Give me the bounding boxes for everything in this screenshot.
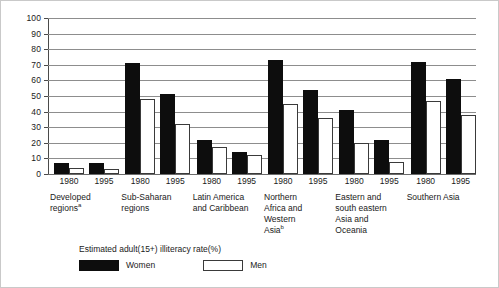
legend-label-men: Men (250, 260, 267, 271)
gridline-0 (48, 174, 476, 175)
x-axis-year-4-1995: 1995 (369, 176, 409, 186)
bar-women-1-1980 (125, 63, 140, 174)
bar-women-3-1995 (303, 90, 318, 174)
x-axis-group-label-2: Latin Americaand Caribbean (193, 192, 268, 214)
x-axis-year-0-1980: 1980 (49, 176, 89, 186)
y-axis-label-0: 0 (1, 170, 41, 179)
bars-layer (48, 18, 476, 174)
y-axis-label-50: 50 (1, 92, 41, 101)
x-axis-year-4-1980: 1980 (334, 176, 374, 186)
x-axis-group-label-4: Eastern andsouth easternAsia andOceania (335, 192, 410, 236)
y-axis-label-40: 40 (1, 108, 41, 117)
y-axis-label-70: 70 (1, 61, 41, 70)
x-axis: 19801995Developedregionsa19801995Sub-Sah… (48, 176, 476, 246)
bar-men-0-1980 (69, 168, 84, 174)
y-tick-mark-0 (44, 174, 48, 175)
y-axis-label-30: 30 (1, 123, 41, 132)
bar-women-5-1980 (411, 62, 426, 174)
legend-entry-women: Women (79, 260, 155, 271)
bar-men-0-1995 (104, 169, 119, 174)
bar-men-1-1980 (140, 99, 155, 174)
bar-women-4-1980 (339, 110, 354, 174)
bar-women-2-1980 (197, 140, 212, 174)
x-axis-year-1-1980: 1980 (120, 176, 160, 186)
y-axis-label-10: 10 (1, 154, 41, 163)
y-axis-label-90: 90 (1, 30, 41, 39)
bar-women-3-1980 (268, 60, 283, 174)
bar-women-1-1995 (160, 94, 175, 174)
legend-entries: Women Men (79, 260, 419, 271)
legend-entry-men: Men (203, 260, 267, 271)
bar-men-2-1980 (212, 147, 227, 174)
x-axis-group-label-5: Southern Asia (407, 192, 482, 203)
legend-label-women: Women (126, 260, 155, 271)
bar-men-3-1980 (283, 104, 298, 174)
x-axis-group-label-0: Developedregionsa (50, 192, 125, 214)
x-axis-year-3-1995: 1995 (298, 176, 338, 186)
legend-title: Estimated adult(15+) illiteracy rate(%) (79, 244, 419, 255)
x-axis-year-1-1995: 1995 (155, 176, 195, 186)
x-axis-group-label-3: NorthernAfrica andWesternAsiab (264, 192, 339, 236)
bar-men-1-1995 (175, 124, 190, 174)
x-axis-year-5-1980: 1980 (406, 176, 446, 186)
bar-women-0-1980 (54, 163, 69, 174)
bar-men-4-1980 (354, 143, 369, 174)
plot-area (48, 18, 476, 174)
x-axis-year-3-1980: 1980 (263, 176, 303, 186)
x-axis-group-label-1: Sub-Saharanregions (121, 192, 196, 214)
x-axis-year-5-1995: 1995 (441, 176, 481, 186)
legend-swatch-men (203, 260, 243, 271)
x-axis-year-0-1995: 1995 (84, 176, 124, 186)
bar-women-0-1995 (89, 163, 104, 174)
y-axis-label-20: 20 (1, 139, 41, 148)
x-axis-year-2-1995: 1995 (227, 176, 267, 186)
y-axis-label-100: 100 (1, 14, 41, 23)
chart-figure: 1009080706050403020100 19801995Developed… (0, 0, 499, 288)
x-axis-year-2-1980: 1980 (192, 176, 232, 186)
chart-legend: Estimated adult(15+) illiteracy rate(%) … (79, 244, 419, 280)
y-axis-label-60: 60 (1, 76, 41, 85)
y-axis-label-80: 80 (1, 45, 41, 54)
legend-swatch-women (79, 260, 119, 271)
bar-women-2-1995 (232, 152, 247, 174)
bar-men-5-1980 (426, 101, 441, 174)
bar-men-3-1995 (318, 118, 333, 174)
bar-men-2-1995 (247, 155, 262, 174)
bar-women-4-1995 (374, 140, 389, 174)
bar-women-5-1995 (446, 79, 461, 174)
bar-men-5-1995 (461, 115, 476, 174)
bar-men-4-1995 (389, 162, 404, 174)
